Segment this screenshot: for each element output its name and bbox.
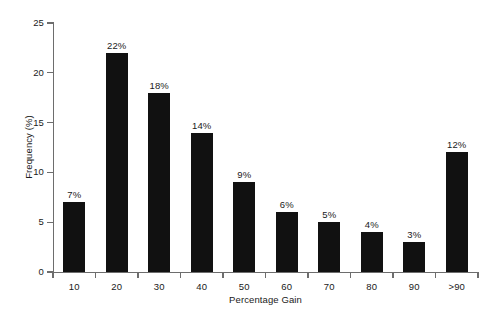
x-axis-tick [435,272,436,278]
bar-value-label: 9% [214,169,274,180]
bar-value-label: 22% [87,40,147,51]
x-axis-tick [222,272,223,278]
x-axis-tick [265,272,266,278]
x-axis-tick [137,272,138,278]
bar [361,232,383,272]
bar-chart-figure: Frequency (%) 0510152025 102030405060708… [0,0,496,318]
bar [403,242,425,272]
y-axis-tick-label: 20 [4,68,44,78]
bar-value-label: 3% [384,229,444,240]
bar-value-label: 7% [44,189,104,200]
x-axis-tick [52,272,53,278]
x-axis-tick [392,272,393,278]
bar-value-label: 18% [129,80,189,91]
y-axis-tick-label: 15 [4,118,44,128]
bar [276,212,298,272]
bar [63,202,85,272]
bar [233,182,255,272]
bar [106,53,128,272]
bar [318,222,340,272]
bar [191,133,213,272]
x-axis-title: Percentage Gain [53,294,478,305]
x-axis-tick [180,272,181,278]
bar-value-label: 12% [427,139,487,150]
y-axis-tick-label: 25 [4,18,44,28]
x-axis-tick [350,272,351,278]
x-axis-tick-label: >90 [427,281,487,292]
bar [446,152,468,272]
y-axis-tick-label: 10 [4,167,44,177]
bar-value-label: 14% [172,120,232,131]
plot-area: 7%22%18%14%9%6%5%4%3%12% [53,23,478,272]
y-axis-title: Frequency (%) [22,22,36,272]
x-axis-tick [95,272,96,278]
x-axis-tick [477,272,478,278]
y-axis-tick-label: 5 [4,217,44,227]
x-axis-tick [307,272,308,278]
y-axis-tick-label: 0 [4,267,44,277]
bar [148,93,170,272]
